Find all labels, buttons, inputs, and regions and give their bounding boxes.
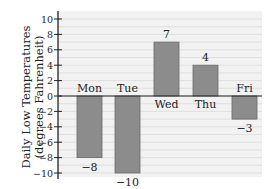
category-label: Thu (195, 98, 217, 111)
bar-mon (77, 96, 102, 158)
y-tick-label: 8 (47, 29, 53, 40)
data-label: −10 (116, 176, 139, 189)
category-label: Fri (236, 82, 253, 95)
category-label: Mon (77, 82, 102, 95)
plot-area: Mon−8Tue−10Wed7Thu4Fri−31086420−2−4−6−8−… (33, 11, 262, 189)
y-tick-label: 2 (47, 75, 53, 86)
y-tick-label: 4 (47, 60, 53, 71)
data-label: 4 (202, 51, 209, 64)
y-tick-label: 10 (41, 14, 53, 25)
y-tick-label: −6 (39, 137, 53, 148)
data-label: −3 (236, 122, 252, 135)
bar-fri (232, 96, 257, 119)
y-tick-label: −8 (39, 152, 53, 163)
y-tick-label: −4 (39, 121, 53, 132)
y-tick-label: 0 (47, 91, 53, 102)
bar-tue (115, 96, 140, 173)
y-tick-label: 6 (47, 44, 53, 55)
data-label: 7 (163, 28, 170, 41)
bar-wed (154, 42, 179, 96)
data-label: −8 (81, 161, 97, 174)
y-tick-label: −10 (33, 168, 53, 179)
bar-chart: Mon−8Tue−10Wed7Thu4Fri−31086420−2−4−6−8−… (0, 0, 270, 189)
y-tick-label: −2 (39, 106, 53, 117)
category-label: Wed (155, 98, 179, 111)
category-label: Tue (117, 82, 138, 95)
bar-thu (193, 65, 218, 96)
